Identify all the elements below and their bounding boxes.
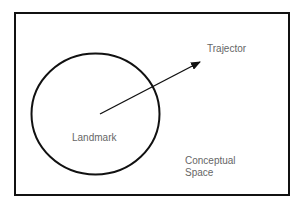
conceptual-space-diagram: Trajector Landmark Conceptual Space: [0, 0, 305, 205]
trajector-label: Trajector: [207, 43, 246, 55]
conceptual-space-frame: [15, 13, 289, 195]
conceptual-space-label: Conceptual Space: [185, 155, 236, 179]
conceptual-space-label-line1: Conceptual: [185, 155, 236, 167]
landmark-circle: [32, 54, 160, 175]
landmark-label: Landmark: [72, 132, 116, 144]
diagram-canvas: [0, 0, 305, 205]
trajector-arrow: [100, 62, 200, 114]
conceptual-space-label-line2: Space: [185, 167, 236, 179]
